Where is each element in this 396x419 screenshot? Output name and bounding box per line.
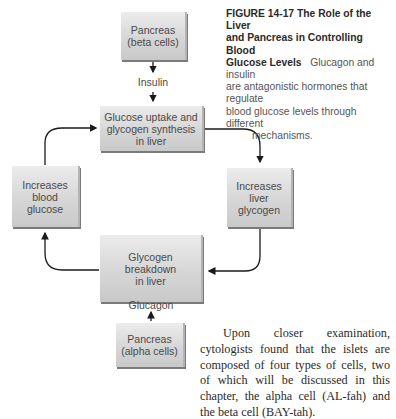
arrow-breakdown-to-bloodglucose [45, 233, 99, 270]
figure-title-line2: and Pancreas in Controlling Blood [226, 32, 363, 55]
figure-number: FIGURE 14-17 [226, 8, 294, 19]
arrow-bloodglucose-to-uptake [45, 128, 96, 165]
caption-text-line3: blood glucose levels through different [226, 106, 357, 129]
label-insulin: Insulin [128, 76, 178, 88]
caption-text-line4: mechanisms. [226, 130, 394, 142]
arrow-liverglycogen-to-breakdown [209, 229, 260, 271]
node-glycogen-breakdown: Glycogen breakdown in liver [100, 235, 203, 302]
node-glucose-uptake-glycogen-synthesis: Glucose uptake and glycogen synthesis in… [100, 106, 204, 151]
node-increases-liver-glycogen: Increases liver glycogen [227, 168, 293, 227]
node-pancreas-alpha-cells: Pancreas (alpha cells) [116, 323, 185, 367]
body-paragraph: Upon closer examination, cytologists fou… [200, 326, 390, 419]
figure-title-line3: Glucose Levels [226, 57, 302, 68]
figure-caption: FIGURE 14-17 The Role of the Liver and P… [226, 8, 394, 142]
caption-text-line2: are antagonistic hormones that regulate [226, 81, 367, 104]
node-increases-blood-glucose: Increases blood glucose [12, 166, 80, 227]
node-pancreas-beta-cells: Pancreas (beta cells) [121, 12, 187, 60]
label-glucagon: Glucagon [121, 299, 181, 311]
